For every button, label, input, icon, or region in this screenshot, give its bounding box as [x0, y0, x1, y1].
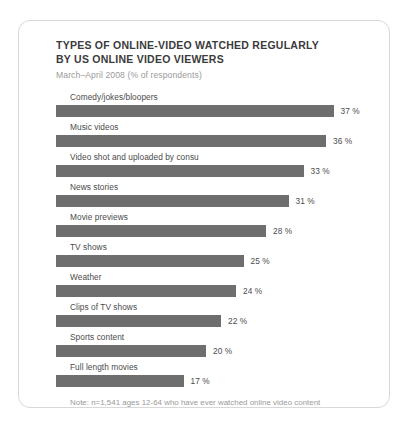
page-title-line-1: TYPES OF ONLINE-VIDEO WATCHED REGULARLY: [56, 39, 367, 53]
footnote: Note: n=1,541 ages 12-64 who have ever w…: [70, 398, 367, 409]
footnote-note: Note: n=1,541 ages 12-64 who have ever w…: [70, 398, 367, 409]
bar-line: 28 %: [56, 225, 367, 237]
bar: [56, 345, 206, 357]
bar-line: 17 %: [56, 375, 367, 387]
bar-value-label: 33 %: [311, 166, 330, 176]
bar-value-label: 37 %: [341, 106, 360, 116]
chart-row: Sports content20 %: [56, 332, 367, 357]
bar-value-label: 31 %: [296, 196, 315, 206]
bar: [56, 165, 304, 177]
bar-value-label: 20 %: [213, 346, 232, 356]
bar-line: 37 %: [56, 105, 367, 117]
page-title: TYPES OF ONLINE-VIDEO WATCHED REGULARLY …: [56, 39, 367, 66]
card-inner: TYPES OF ONLINE-VIDEO WATCHED REGULARLY …: [19, 21, 389, 408]
chart-row: Clips of TV shows22 %: [56, 302, 367, 327]
bar-line: 33 %: [56, 165, 367, 177]
bar-line: 22 %: [56, 315, 367, 327]
bar: [56, 195, 289, 207]
page-title-line-2: BY US ONLINE VIDEO VIEWERS: [56, 53, 367, 67]
bar: [56, 285, 236, 297]
bar: [56, 105, 334, 117]
bar: [56, 135, 326, 147]
bar-category-label: Movie previews: [70, 212, 367, 222]
bar: [56, 225, 266, 237]
bar-category-label: Full length movies: [70, 362, 367, 372]
bar: [56, 315, 221, 327]
chart-row: Comedy/jokes/bloopers37 %: [56, 92, 367, 117]
chart-row: Full length movies17 %: [56, 362, 367, 387]
bar-category-label: Music videos: [70, 122, 367, 132]
chart-row: Movie previews28 %: [56, 212, 367, 237]
bar-chart: Comedy/jokes/bloopers37 %Music videos36 …: [56, 92, 367, 387]
chart-row: News stories31 %: [56, 182, 367, 207]
bar-value-label: 22 %: [228, 316, 247, 326]
bar-value-label: 24 %: [243, 286, 262, 296]
page-subtitle: March–April 2008 (% of respondents): [56, 70, 367, 80]
bar-value-label: 36 %: [333, 136, 352, 146]
chart-row: Music videos36 %: [56, 122, 367, 147]
bar-value-label: 28 %: [273, 226, 292, 236]
bar-value-label: 25 %: [251, 256, 270, 266]
chart-row: TV shows25 %: [56, 242, 367, 267]
bar-value-label: 17 %: [191, 376, 210, 386]
chart-row: Weather24 %: [56, 272, 367, 297]
bar-line: 24 %: [56, 285, 367, 297]
bar-category-label: Comedy/jokes/bloopers: [70, 92, 367, 102]
bar-line: 25 %: [56, 255, 367, 267]
bar-line: 31 %: [56, 195, 367, 207]
bar-line: 36 %: [56, 135, 367, 147]
bar-category-label: TV shows: [70, 242, 367, 252]
chart-row: Video shot and uploaded by consu33 %: [56, 152, 367, 177]
bar: [56, 375, 184, 387]
chart-card: TYPES OF ONLINE-VIDEO WATCHED REGULARLY …: [18, 20, 390, 408]
bar: [56, 255, 244, 267]
bar-category-label: News stories: [70, 182, 367, 192]
bar-category-label: Weather: [70, 272, 367, 282]
bar-category-label: Clips of TV shows: [70, 302, 367, 312]
bar-category-label: Sports content: [70, 332, 367, 342]
bar-line: 20 %: [56, 345, 367, 357]
bar-category-label: Video shot and uploaded by consu: [70, 152, 367, 162]
